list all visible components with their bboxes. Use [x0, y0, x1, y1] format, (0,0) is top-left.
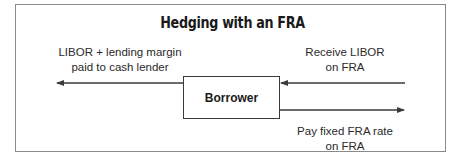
borrower-node: Borrower	[183, 76, 280, 119]
